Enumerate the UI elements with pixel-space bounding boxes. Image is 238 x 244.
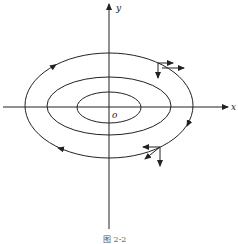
vector-decomposition-bottom: [143, 147, 160, 166]
phase-portrait-diagram: x y o 图 2-2: [0, 0, 238, 244]
origin-label: o: [112, 110, 118, 120]
x-axis-label: x: [231, 102, 236, 112]
y-axis-label: y: [115, 3, 122, 13]
figure-caption: 图 2-2: [103, 235, 126, 244]
